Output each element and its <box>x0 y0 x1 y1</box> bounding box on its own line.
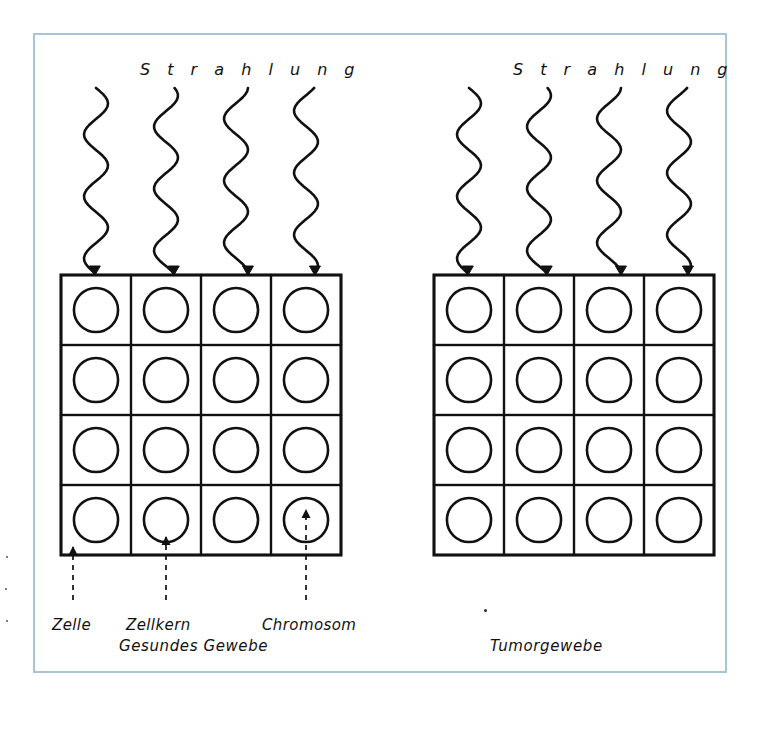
tissue-cell <box>131 415 201 485</box>
radiation-wave <box>84 88 108 273</box>
tissue-cell <box>61 345 131 415</box>
tissue-cell <box>61 275 131 345</box>
tissue-cell <box>504 345 574 415</box>
tissue-cell <box>201 275 271 345</box>
tissue-cell <box>271 415 341 485</box>
tissue-cell <box>504 485 574 555</box>
cell-nucleus <box>284 428 328 472</box>
caption-healthy-tissue: Gesundes Gewebe <box>119 637 268 655</box>
tissue-cell <box>644 345 714 415</box>
tissue-cell <box>131 275 201 345</box>
cell-nucleus <box>284 358 328 402</box>
tissue-cell <box>61 415 131 485</box>
tissue-cell <box>271 345 341 415</box>
cell-nucleus <box>144 288 188 332</box>
tissue-cell <box>574 275 644 345</box>
callout-label-zelle: Zelle <box>52 616 91 634</box>
cell-nucleus <box>144 358 188 402</box>
cell-nucleus <box>657 428 701 472</box>
cell-nucleus <box>214 498 258 542</box>
tissue-cell <box>434 485 504 555</box>
tissue-cell <box>434 415 504 485</box>
tissue-cell <box>574 345 644 415</box>
cell-nucleus <box>517 358 561 402</box>
cell-nucleus <box>587 288 631 332</box>
diagram-artwork <box>0 0 765 737</box>
cell-nucleus <box>144 498 188 542</box>
cell-nucleus <box>657 358 701 402</box>
tissue-cell <box>644 275 714 345</box>
tissue-cell <box>131 345 201 415</box>
cell-nucleus <box>74 358 118 402</box>
tissue-cell <box>434 345 504 415</box>
cell-nucleus <box>517 288 561 332</box>
cell-nucleus <box>74 498 118 542</box>
tissue-cell <box>504 275 574 345</box>
cell-nucleus <box>284 288 328 332</box>
radiation-wave <box>597 88 621 273</box>
tissue-cell <box>574 485 644 555</box>
cell-nucleus <box>144 428 188 472</box>
radiation-wave <box>154 88 178 273</box>
cell-nucleus <box>74 428 118 472</box>
tissue-cell <box>201 345 271 415</box>
tissue-cell <box>644 485 714 555</box>
radiation-wave <box>527 88 551 273</box>
cell-nucleus <box>214 428 258 472</box>
cell-nucleus <box>447 358 491 402</box>
callout-label-chromosom: Chromosom <box>262 616 356 634</box>
tissue-cell <box>574 415 644 485</box>
radiation-wave <box>667 88 691 273</box>
tissue-cell <box>504 415 574 485</box>
cell-nucleus <box>214 358 258 402</box>
cell-nucleus <box>587 498 631 542</box>
ink-speck <box>484 609 487 612</box>
cell-nucleus <box>447 288 491 332</box>
tissue-cell <box>271 275 341 345</box>
cell-nucleus <box>517 498 561 542</box>
radiation-wave <box>294 88 318 273</box>
tissue-cell <box>201 415 271 485</box>
tissue-cell <box>434 275 504 345</box>
cell-nucleus <box>447 498 491 542</box>
tissue-cell <box>644 415 714 485</box>
cell-nucleus <box>517 428 561 472</box>
radiation-wave <box>224 88 248 273</box>
cell-nucleus <box>74 288 118 332</box>
cell-nucleus <box>587 428 631 472</box>
caption-tumor-tissue: Tumorgewebe <box>490 637 603 655</box>
cell-nucleus <box>657 288 701 332</box>
cell-nucleus <box>214 288 258 332</box>
cell-nucleus <box>657 498 701 542</box>
cell-nucleus <box>587 358 631 402</box>
radiation-wave <box>457 88 481 273</box>
tissue-cell <box>61 485 131 555</box>
cell-nucleus <box>447 428 491 472</box>
callout-arrowhead <box>69 546 78 555</box>
tissue-cell <box>201 485 271 555</box>
figure-root: S t r a h l u n g S t r a h l u n g Zell… <box>0 0 765 737</box>
callout-label-zellkern: Zellkern <box>126 616 191 634</box>
